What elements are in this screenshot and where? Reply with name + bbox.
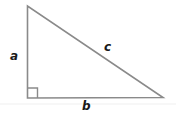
right-angle-marker — [28, 88, 38, 98]
triangle-outline — [28, 6, 164, 98]
side-label-c: c — [104, 41, 111, 53]
right-triangle-diagram: a b c — [0, 0, 176, 122]
side-label-b: b — [82, 100, 91, 112]
side-label-a: a — [10, 50, 18, 62]
